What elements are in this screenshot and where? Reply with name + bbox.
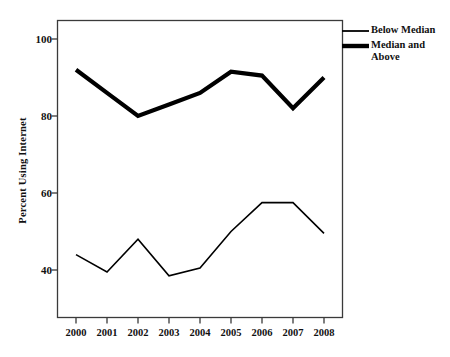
plot-frame — [58, 21, 343, 318]
series-line-median-and-above — [76, 70, 324, 116]
legend-label-median-and-above: Median and Above — [371, 39, 425, 62]
x-axis-ticks — [76, 318, 324, 324]
line-chart: Percent Using Internet 100 80 60 40 2000… — [0, 0, 450, 357]
series-line-below-median — [76, 203, 324, 276]
legend-label-below-median: Below Median — [371, 24, 435, 36]
y-axis-ticks — [52, 39, 58, 270]
